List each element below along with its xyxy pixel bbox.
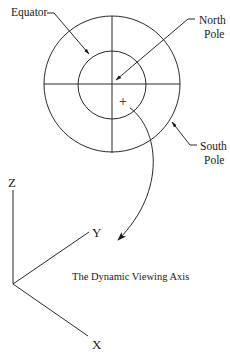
equator-leader-arrow xyxy=(47,13,89,54)
north-pole-label-line1: North xyxy=(199,14,226,26)
globe xyxy=(44,16,180,153)
z-axis-label: Z xyxy=(8,175,16,190)
equator-label: Equator xyxy=(11,6,48,19)
y-axis-label: Y xyxy=(92,225,102,240)
north-pole-label-line2: Pole xyxy=(204,28,224,40)
south-pole-leader-arrow xyxy=(172,122,197,145)
x-axis-line xyxy=(13,284,88,336)
diagram-caption: The Dynamic Viewing Axis xyxy=(72,271,189,282)
curved-viewing-arrow xyxy=(118,108,153,240)
viewpoint-marker: + xyxy=(119,94,127,109)
dynamic-viewing-axis-diagram: + Equator North Pole South Pole Z Y X Th… xyxy=(0,0,230,354)
x-axis-label: X xyxy=(92,337,102,352)
north-pole-leader-arrow xyxy=(116,19,195,80)
south-pole-label-line1: South xyxy=(200,140,227,152)
xyz-axes: Z Y X xyxy=(8,175,102,352)
south-pole-label-line2: Pole xyxy=(204,154,224,166)
